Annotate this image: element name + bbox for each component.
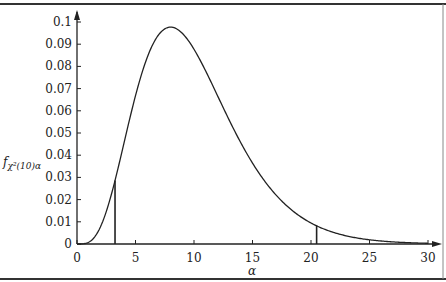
x-tick-label: 30	[420, 251, 435, 265]
y-axis: 00.010.020.030.040.050.060.070.080.090.1	[45, 10, 81, 251]
y-tick-label: 0.04	[45, 148, 72, 162]
chart-figure: 00.010.020.030.040.050.060.070.080.090.1…	[0, 0, 446, 282]
y-tick-label: 0.1	[53, 15, 72, 29]
x-axis-label: α	[248, 264, 256, 278]
y-axis-label: fχ²(10)α	[2, 155, 41, 171]
y-tick-label: 0.02	[45, 193, 72, 207]
axis-labels: α fχ²(10)α	[2, 155, 256, 278]
x-tick-label: 25	[362, 251, 377, 265]
y-tick-label: 0.06	[45, 104, 72, 118]
y-tick-label: 0.07	[45, 82, 72, 96]
y-tick-label: 0.08	[45, 59, 72, 73]
critical-value-lines	[115, 180, 317, 244]
x-tick-label: 15	[245, 251, 260, 265]
y-tick-label: 0.03	[45, 170, 72, 184]
x-axis: 051015202530	[73, 240, 442, 265]
x-tick-label: 5	[132, 251, 140, 265]
y-tick-label: 0.05	[45, 126, 72, 140]
y-tick-label: 0.01	[45, 215, 72, 229]
pdf-curve	[77, 27, 428, 244]
x-tick-label: 20	[303, 251, 318, 265]
x-tick-label: 0	[73, 251, 81, 265]
x-tick-label: 10	[186, 251, 201, 265]
y-tick-label: 0.09	[45, 37, 72, 51]
y-tick-label: 0	[64, 237, 72, 251]
